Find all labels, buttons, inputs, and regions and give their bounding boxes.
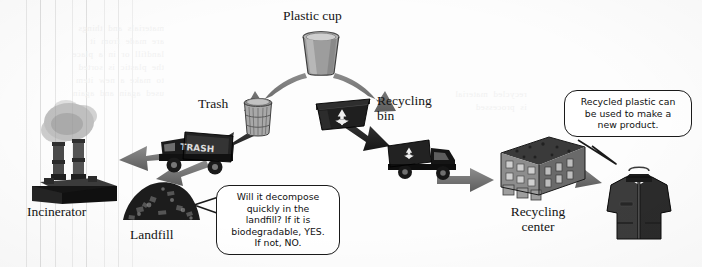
diagram-canvas: materials and things are made from it la… xyxy=(0,0,702,267)
page-vignette xyxy=(0,0,702,267)
